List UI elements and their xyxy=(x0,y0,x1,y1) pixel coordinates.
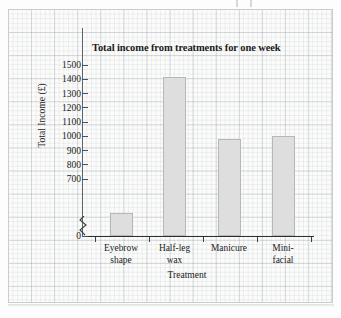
x-category-label-line-1: Manicure xyxy=(198,243,260,255)
x-category-label-manicure: Manicure xyxy=(198,243,260,255)
x-axis-line xyxy=(82,236,314,237)
y-tick-label-700: 700 xyxy=(67,173,81,185)
x-category-label-line-1: Half-leg xyxy=(144,243,206,255)
bar-manicure xyxy=(218,139,241,236)
bar-eyebrow-shape xyxy=(110,213,133,236)
y-tick-800: 800 xyxy=(44,159,88,171)
y-tick-1200: 1200 xyxy=(44,102,88,114)
y-tick-label-1400: 1400 xyxy=(62,73,81,85)
y-tick-label-1200: 1200 xyxy=(62,102,81,114)
y-tick-mark-1500 xyxy=(82,65,88,66)
x-category-label-mini-facial: Mini- facial xyxy=(252,243,314,266)
x-category-label-half-leg-wax: Half-leg wax xyxy=(144,243,206,266)
y-tick-1300: 1300 xyxy=(44,88,88,100)
x-tick-mark-5 xyxy=(311,237,312,242)
x-category-label-line-2: facial xyxy=(252,255,314,267)
x-tick-mark-2 xyxy=(149,237,150,242)
scanned-page: Total income from treatments for one wee… xyxy=(0,0,341,318)
y-tick-label-800: 800 xyxy=(67,159,81,171)
y-tick-1400: 1400 xyxy=(44,73,88,85)
x-category-label-line-2: wax xyxy=(144,255,206,267)
y-tick-mark-900 xyxy=(82,150,88,151)
axis-break-zigzag-icon xyxy=(76,216,90,237)
x-tick-mark-1 xyxy=(95,237,96,242)
x-category-label-line-1: Mini- xyxy=(252,243,314,255)
y-tick-mark-800 xyxy=(82,164,88,165)
x-axis-title: Treatment xyxy=(137,269,237,280)
y-tick-mark-1300 xyxy=(82,93,88,94)
bar-mini-facial xyxy=(272,136,295,236)
y-tick-label-1300: 1300 xyxy=(62,88,81,100)
y-tick-label-1500: 1500 xyxy=(62,59,81,71)
y-tick-mark-1100 xyxy=(82,122,88,123)
y-tick-label-900: 900 xyxy=(67,145,81,157)
y-tick-1100: 1100 xyxy=(44,116,88,128)
y-tick-mark-1200 xyxy=(82,107,88,108)
chart-title: Total income from treatments for one wee… xyxy=(92,42,322,53)
y-tick-mark-700 xyxy=(82,179,88,180)
y-tick-label-1000: 1000 xyxy=(62,130,81,142)
y-tick-900: 900 xyxy=(44,145,88,157)
y-tick-mark-1400 xyxy=(82,79,88,80)
y-tick-1500: 1500 xyxy=(44,59,88,71)
bar-chart: Total income from treatments for one wee… xyxy=(0,0,341,318)
x-tick-mark-4 xyxy=(257,237,258,242)
y-tick-label-1100: 1100 xyxy=(62,116,81,128)
bar-half-leg-wax xyxy=(163,77,186,237)
x-tick-mark-3 xyxy=(203,237,204,242)
y-tick-700: 700 xyxy=(44,173,88,185)
y-tick-mark-1000 xyxy=(82,136,88,137)
y-tick-1000: 1000 xyxy=(44,130,88,142)
